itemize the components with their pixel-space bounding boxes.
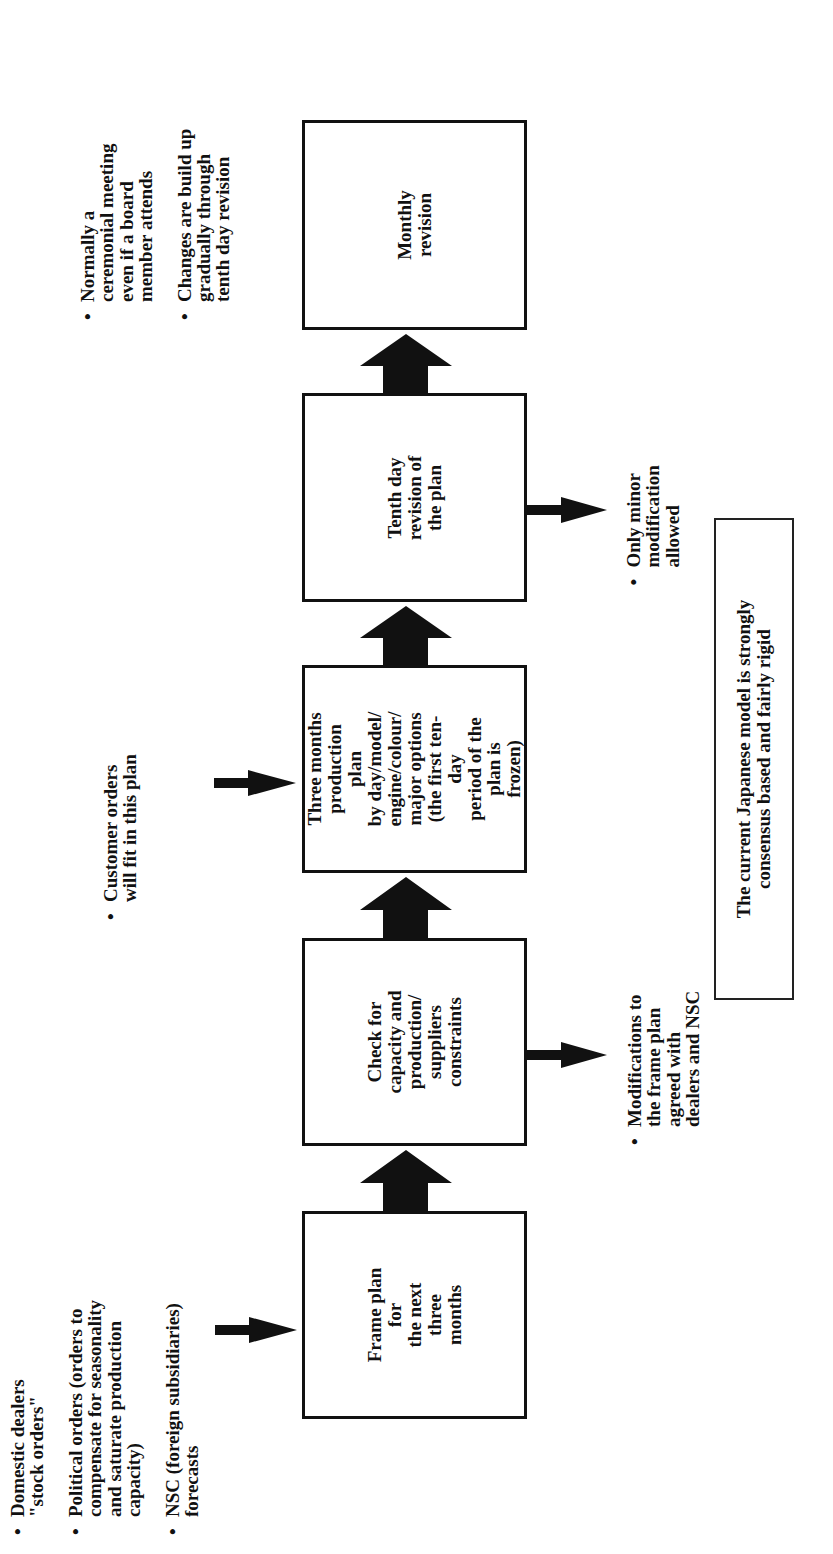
flow-arrow-up-icon: [360, 873, 452, 938]
step-three-month-plan-label: Three months production plan by day/mode…: [305, 711, 524, 826]
step-monthly-revision-label: Monthly revision: [395, 190, 435, 260]
input-item: Political orders (orders to compensate f…: [66, 1035, 144, 1535]
check-constraints-outputs: Modifications to the frame plan agreed w…: [608, 895, 718, 1145]
step-frame-plan-label: Frame plan for the next three months: [365, 1260, 465, 1370]
step-monthly-revision: Monthly revision: [302, 120, 527, 330]
three-month-plan-input-list: Customer orders will fit in this plan: [81, 680, 159, 920]
frame-plan-inputs: Domestic dealers "stock orders" Politica…: [0, 1035, 210, 1535]
step-check-constraints-label: Check for capacity and production/ suppl…: [365, 991, 465, 1094]
note-item: Changes are build up gradually through t…: [174, 60, 232, 320]
input-arrow-right-icon: [214, 770, 296, 796]
frame-plan-input-list: Domestic dealers "stock orders" Politica…: [0, 1035, 221, 1535]
three-month-plan-inputs: Customer orders will fit in this plan: [90, 680, 150, 920]
flow-arrow-up-icon: [360, 330, 452, 393]
step-three-month-plan: Three months production plan by day/mode…: [302, 665, 527, 873]
summary-text: The current Japanese model is strongly c…: [734, 524, 774, 994]
step-tenth-day-revision-label: Tenth day revision of the plan: [385, 455, 445, 540]
tenth-day-revision-outputs: Only minor modification allowed: [608, 410, 698, 585]
input-item: NSC (foreign subsidiaries) forecasts: [163, 1035, 202, 1535]
output-item: Modifications to the frame plan agreed w…: [624, 895, 702, 1145]
note-item: Normally a ceremonial meeting even if a …: [78, 60, 156, 320]
step-tenth-day-revision: Tenth day revision of the plan: [302, 393, 527, 602]
flow-arrow-up-icon: [360, 1146, 452, 1211]
step-check-constraints: Check for capacity and production/ suppl…: [302, 938, 527, 1146]
input-item: Domestic dealers "stock orders": [8, 1035, 47, 1535]
flow-arrow-up-icon: [360, 602, 452, 665]
tenth-day-revision-output-list: Only minor modification allowed: [605, 410, 702, 585]
summary-box: The current Japanese model is strongly c…: [714, 518, 794, 1000]
check-constraints-output-list: Modifications to the frame plan agreed w…: [605, 895, 721, 1145]
output-item: Only minor modification allowed: [624, 410, 682, 585]
input-item: Customer orders will fit in this plan: [101, 680, 140, 920]
monthly-revision-note-list: Normally a ceremonial meeting even if a …: [58, 60, 252, 320]
step-frame-plan: Frame plan for the next three months: [302, 1211, 527, 1419]
monthly-revision-notes: Normally a ceremonial meeting even if a …: [80, 60, 230, 320]
